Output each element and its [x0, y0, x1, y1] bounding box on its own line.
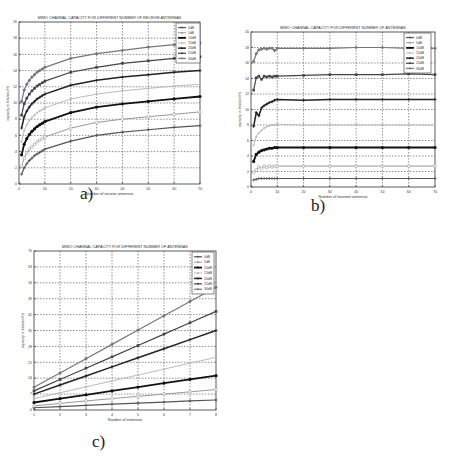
x-tick-label: 8: [215, 413, 217, 417]
x-tick-label: 60: [407, 190, 411, 194]
caption-b: b): [311, 196, 325, 216]
y-tick-label: 42: [28, 313, 32, 317]
x-axis-label: Number of transmit antennas: [319, 195, 368, 199]
x-tick-label: 40: [354, 190, 358, 194]
y-tick-label: 16: [245, 61, 249, 65]
legend-label: 20dB: [188, 46, 197, 50]
x-tick-label: 50: [380, 190, 384, 194]
x-tick-label: 4: [111, 413, 113, 417]
legend-label: 20dB: [204, 277, 213, 281]
x-tick-label: 3: [85, 413, 87, 417]
chart-title: MIMO CHANNAL CAPACITY FOR DIFFERENT NUMB…: [38, 16, 182, 20]
caption-a: a): [80, 184, 93, 204]
y-tick-label: 18: [245, 46, 249, 50]
x-tick-label: 6: [163, 413, 165, 417]
x-tick-label: 7: [189, 413, 191, 417]
chart-b: 01020304050607002468101214161820MIMO CHA…: [230, 10, 457, 210]
x-tick-label: 30: [95, 187, 99, 191]
legend-label: 0dB: [188, 26, 195, 30]
y-tick-label: 35: [28, 329, 32, 333]
legend-label: 5dB: [416, 41, 423, 45]
legend-label: 25dB: [204, 282, 213, 286]
legend-label: 10dB: [416, 46, 425, 50]
y-tick-label: 10: [245, 108, 249, 112]
x-tick-label: 70: [198, 187, 202, 191]
x-tick-label: 20: [302, 190, 306, 194]
legend-label: 5dB: [204, 260, 211, 264]
y-tick-label: 12: [13, 85, 17, 89]
chart-title: MIMO CHANNAL CAPACITY FOR DIFFERENT NUMB…: [62, 245, 188, 249]
y-tick-label: 14: [28, 376, 32, 380]
x-tick-label: 1: [33, 413, 35, 417]
x-axis-label: Number of antennas: [108, 418, 143, 422]
y-tick-label: 8: [247, 123, 249, 127]
legend-label: 15dB: [416, 51, 425, 55]
legend-label: 15dB: [188, 41, 197, 45]
chart-panel-c: 1234567807142128354249566370MIMO CHANNAL…: [0, 232, 240, 432]
legend-label: 15dB: [204, 271, 213, 275]
chart-panel-b: 01020304050607002468101214161820MIMO CHA…: [230, 10, 457, 210]
x-tick-label: 30: [328, 190, 332, 194]
y-tick-label: 10: [13, 101, 17, 105]
y-tick-label: 0: [247, 185, 249, 189]
y-tick-label: 0: [15, 182, 17, 186]
y-tick-label: 0: [30, 408, 32, 412]
chart-panel-a: 01020304050607002468101214161820MIMO CHA…: [0, 10, 230, 210]
chart-a: 01020304050607002468101214161820MIMO CHA…: [0, 10, 230, 210]
legend-label: 25dB: [416, 61, 425, 65]
y-tick-label: 6: [15, 134, 17, 138]
x-tick-label: 5: [137, 413, 139, 417]
x-tick-label: 10: [43, 187, 47, 191]
y-tick-label: 20: [245, 30, 249, 34]
legend-label: 20dB: [416, 56, 425, 60]
x-tick-label: 70: [433, 190, 437, 194]
legend-label: 10dB: [204, 266, 213, 270]
y-tick-label: 14: [13, 69, 17, 73]
legend-label: 0dB: [204, 255, 211, 259]
legend-label: 10dB: [188, 36, 197, 40]
y-tick-label: 20: [13, 20, 17, 24]
x-tick-label: 0: [18, 187, 20, 191]
y-tick-label: 8: [15, 117, 17, 121]
legend-label: 5dB: [188, 31, 195, 35]
y-axis-label: capacity in bits/sec/Hz: [6, 85, 10, 121]
x-tick-label: 0: [250, 190, 252, 194]
legend: 0dB5dB10dB15dB20dB25dB30dB: [404, 33, 431, 73]
x-tick-label: 50: [146, 187, 150, 191]
x-tick-label: 40: [120, 187, 124, 191]
caption-c: c): [92, 432, 105, 452]
y-tick-label: 63: [28, 265, 32, 269]
x-tick-label: 10: [275, 190, 279, 194]
y-tick-label: 21: [28, 361, 32, 365]
y-tick-label: 18: [13, 36, 17, 40]
legend-label: 30dB: [204, 287, 213, 291]
legend: 0dB5dB10dB15dB20dB25dB30dB: [176, 23, 200, 63]
y-tick-label: 2: [247, 170, 249, 174]
x-tick-label: 60: [172, 187, 176, 191]
y-tick-label: 6: [247, 139, 249, 143]
y-tick-label: 16: [13, 53, 17, 57]
legend-label: 25dB: [188, 51, 197, 55]
y-axis-label: capacity in bits/sec/Hz: [21, 313, 25, 349]
x-tick-label: 2: [59, 413, 61, 417]
legend-label: 30dB: [188, 57, 197, 61]
y-tick-label: 14: [245, 77, 249, 81]
chart-title: MIMO CHANNAL CAPACITY FOR DIFFERENT NUMB…: [280, 26, 406, 30]
y-axis-label: capacity in bits/sec/Hz: [238, 92, 242, 128]
legend-label: 0dB: [416, 36, 423, 40]
y-tick-label: 2: [15, 166, 17, 170]
x-tick-label: 20: [69, 187, 73, 191]
y-tick-label: 70: [28, 249, 32, 253]
legend: 0dB5dB10dB15dB20dB25dB30dB: [192, 252, 214, 294]
y-tick-label: 56: [28, 281, 32, 285]
y-tick-label: 49: [28, 297, 32, 301]
y-tick-label: 4: [15, 150, 17, 154]
y-tick-label: 28: [28, 345, 32, 349]
chart-c: 1234567807142128354249566370MIMO CHANNAL…: [0, 232, 240, 432]
y-tick-label: 12: [245, 92, 249, 96]
legend-label: 30dB: [416, 67, 425, 71]
y-tick-label: 7: [30, 392, 32, 396]
y-tick-label: 4: [247, 154, 249, 158]
